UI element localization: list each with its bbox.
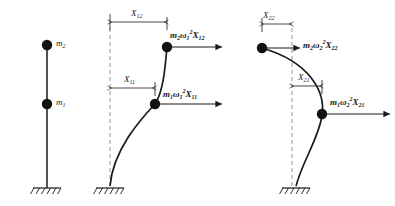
mass-label-m1: m1	[56, 98, 66, 107]
fixed-support-mode2	[280, 188, 311, 194]
dimension-label-X22: X22	[263, 11, 275, 20]
mass-node-m2	[42, 40, 52, 50]
fixed-support-mode1	[94, 188, 125, 194]
mass-node-m1	[42, 99, 52, 109]
force-label-m2-mode1: m2ω12X12	[170, 31, 205, 40]
force-label-m2-mode2: m2ω22X22	[303, 41, 338, 50]
force-label-m1-mode2: m1ω22X21	[330, 98, 365, 107]
deflected-shape-mode1	[110, 47, 167, 186]
panel-mode-1	[94, 14, 223, 194]
dimension-label-X21: X21	[298, 73, 310, 82]
deflected-shape-mode2	[262, 48, 323, 186]
dimension-label-X11: X11	[124, 75, 135, 84]
mass-label-m2: m2	[56, 39, 66, 48]
figure-canvas: m2 m1 X12 X11 m2ω12X12 m1ω12X11 X22 X21 …	[0, 0, 395, 206]
fixed-support-undeformed	[31, 188, 62, 194]
dimension-label-X12: X12	[131, 9, 143, 18]
force-label-m1-mode1: m1ω12X11	[163, 90, 197, 99]
panel-undeformed	[31, 40, 62, 194]
